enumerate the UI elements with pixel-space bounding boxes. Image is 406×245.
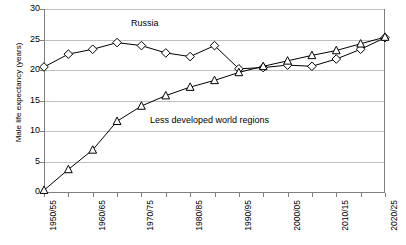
data-point-marker xyxy=(138,102,146,109)
data-point-marker xyxy=(64,50,73,59)
data-point-marker xyxy=(40,63,49,72)
series-label-less-developed: Less developed world regions xyxy=(150,115,269,125)
series-label-russia: Russia xyxy=(131,18,159,28)
data-point-marker xyxy=(113,38,122,47)
data-point-marker xyxy=(88,45,97,54)
data-point-marker xyxy=(40,186,48,193)
data-point-marker xyxy=(308,62,317,71)
data-point-marker xyxy=(332,55,341,64)
data-point-marker xyxy=(161,49,170,58)
data-point-marker xyxy=(64,165,72,172)
data-point-marker xyxy=(113,117,121,124)
data-point-marker xyxy=(186,52,195,61)
data-point-marker xyxy=(137,41,146,50)
life-expectancy-chart: Male life expectancy (years) 05101520253… xyxy=(0,0,406,245)
